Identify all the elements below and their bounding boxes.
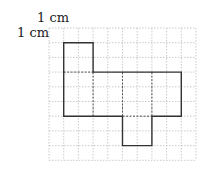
cube-net-diagram (0, 0, 207, 176)
